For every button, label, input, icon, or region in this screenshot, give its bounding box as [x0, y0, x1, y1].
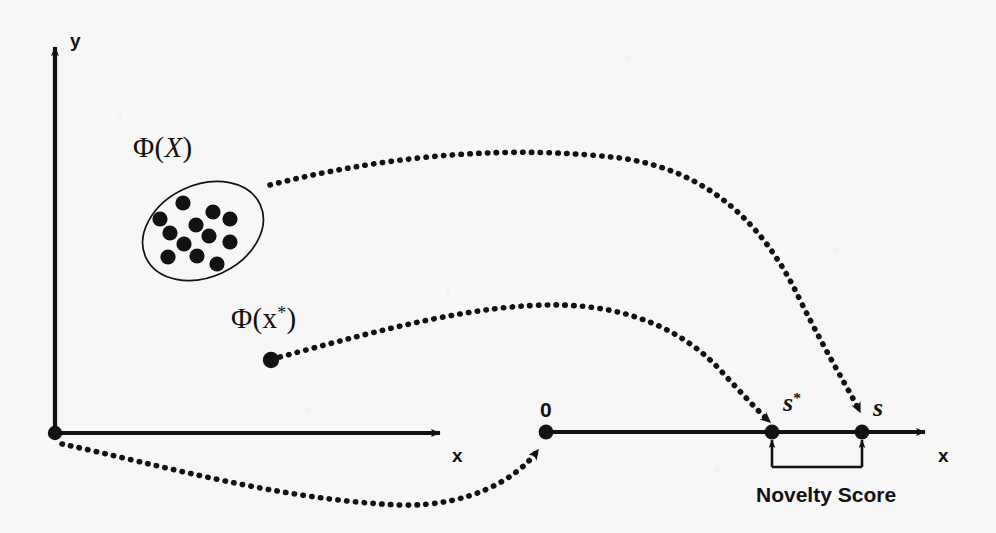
cluster-label: Φ(X) [133, 133, 192, 162]
query-label: Φ(x*) [231, 304, 297, 333]
cluster-point [175, 195, 190, 210]
cluster-label-suffix: ) [182, 131, 192, 163]
y-axis-label: y [70, 31, 81, 50]
cluster-point [188, 217, 203, 232]
zero-dot [539, 425, 554, 440]
novelty-score-diagram: y x x Φ(X) Φ(x*) 0 s* s Novelty Score [0, 0, 996, 533]
s-label: s [873, 395, 883, 421]
s-star-label: s* [783, 390, 801, 416]
mapping-curve-cluster-to-s [270, 152, 860, 412]
query-point-dot [263, 352, 279, 368]
origin-dot [48, 426, 62, 440]
number-line-x-label: x [938, 446, 949, 465]
novelty-score-bracket [772, 440, 862, 467]
s-star-dot [765, 425, 780, 440]
cluster-point [209, 256, 224, 271]
cluster-point [222, 234, 237, 249]
mapping-curve-query-to-s-star [280, 305, 770, 422]
x-axis-label: x [452, 446, 463, 465]
cluster-point [176, 236, 191, 251]
cluster-point [152, 211, 167, 226]
s-star-label-star: * [793, 389, 801, 406]
mapping-curve-origin-to-zero [62, 444, 538, 505]
score-number-line [539, 425, 925, 440]
cluster-point [189, 248, 204, 263]
cluster-point [162, 225, 177, 240]
cluster-point [160, 249, 175, 264]
zero-label: 0 [540, 399, 552, 420]
cluster-point [222, 211, 237, 226]
diagram-canvas [0, 0, 996, 533]
query-label-suffix: ) [287, 302, 297, 334]
query-label-star: * [277, 303, 286, 323]
s-star-label-base: s [783, 388, 793, 417]
cluster-point [201, 228, 216, 243]
novelty-score-label: Novelty Score [756, 484, 896, 505]
cluster-label-var: X [164, 131, 182, 163]
query-label-prefix: Φ(x [231, 302, 277, 334]
cluster-label-prefix: Φ( [133, 131, 164, 163]
cluster-points [152, 195, 237, 271]
s-dot [855, 425, 870, 440]
cluster-point [205, 204, 220, 219]
cluster-ellipse [126, 163, 279, 300]
